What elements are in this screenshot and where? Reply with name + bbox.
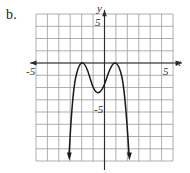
- y-axis-arrow-up: [102, 10, 107, 16]
- curve-arrow-left: [67, 152, 72, 160]
- y-axis-label: y: [97, 3, 102, 14]
- x-axis-label: x: [176, 57, 181, 68]
- item-label: b.: [6, 8, 17, 22]
- y-tick-negative: -5: [94, 104, 103, 115]
- x-tick-positive: 5: [163, 66, 169, 77]
- y-tick-positive: 5: [95, 17, 101, 28]
- x-tick-negative: -5: [26, 66, 35, 77]
- curve-arrow-right: [127, 152, 132, 160]
